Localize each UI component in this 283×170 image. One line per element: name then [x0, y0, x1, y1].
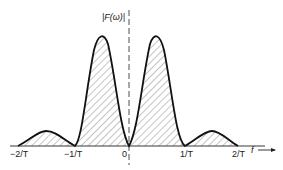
tick-zero: 0	[122, 149, 127, 159]
spectrum-fill	[18, 36, 238, 146]
tick-1-over-T: 1/T	[180, 149, 193, 159]
tick-2-over-T: 2/T	[232, 149, 245, 159]
spectrum-plot	[0, 0, 283, 170]
arrow-head-icon	[271, 148, 276, 152]
tick-neg-1-over-T: −1/T	[64, 149, 82, 159]
spectrum-curve	[18, 36, 238, 146]
tick-neg-2-over-T: −2/T	[10, 149, 28, 159]
y-axis-label: |F(ω)|	[102, 12, 125, 22]
x-axis-label: f	[251, 145, 254, 155]
